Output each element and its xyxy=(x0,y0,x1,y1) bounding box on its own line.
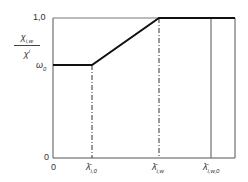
reduction-curve xyxy=(53,18,235,65)
x-tick-lambda-iw: λ̄i,w xyxy=(152,162,164,174)
y-tick-omega0: ω0 xyxy=(36,60,46,72)
diagram-canvas xyxy=(0,0,248,182)
x-tick-0: 0 xyxy=(51,162,56,172)
y-tick-0: 0 xyxy=(44,152,49,162)
y-tick-1: 1,0 xyxy=(33,12,46,22)
y-axis-label: χi,w χi xyxy=(14,32,40,59)
x-tick-lambda-i0: λ̄i,0 xyxy=(86,162,97,174)
x-tick-lambda-iw0: λ̄i,w,0 xyxy=(203,162,219,174)
